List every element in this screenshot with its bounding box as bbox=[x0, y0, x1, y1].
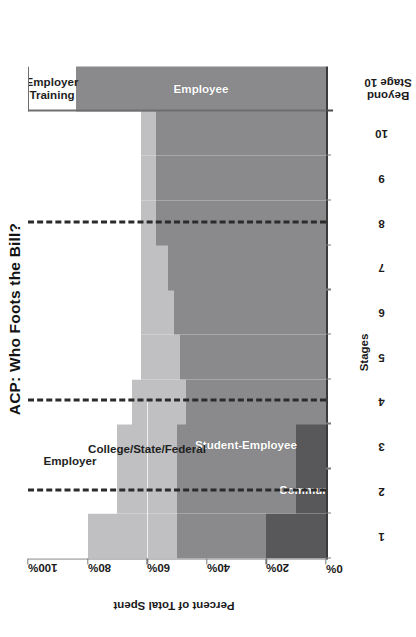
area-segment-college-state-federal bbox=[88, 513, 177, 558]
area-segment-student-employee bbox=[177, 423, 296, 468]
area-segment-community bbox=[296, 423, 326, 468]
area-segment-student-employee bbox=[177, 468, 296, 513]
area-segment-student-employee bbox=[156, 110, 326, 155]
area-segment-community bbox=[266, 513, 326, 558]
x-tick-label: 8 bbox=[337, 216, 416, 229]
y-tick-label: 20% bbox=[266, 562, 289, 574]
area-segment-college-state-federal bbox=[141, 289, 174, 334]
area-segment-employer bbox=[28, 110, 141, 155]
area-segment-employer bbox=[28, 334, 141, 379]
area-segment-college-state-federal bbox=[141, 200, 156, 245]
area-segment-student-employee bbox=[186, 379, 326, 424]
area-label-college-state-federal: College/State/Federal bbox=[88, 442, 206, 455]
x-tick-mark bbox=[326, 244, 331, 245]
x-tick-mark bbox=[326, 378, 331, 379]
x-tick-mark bbox=[326, 199, 331, 200]
area-segment-student-employee bbox=[156, 155, 326, 200]
area-segment-employer bbox=[28, 289, 141, 334]
x-tick-label: 6 bbox=[337, 305, 416, 318]
area-segment-student-employee bbox=[180, 334, 326, 379]
area-segment-college-state-federal bbox=[141, 334, 180, 379]
area-segment-college-state-federal bbox=[117, 468, 177, 513]
area-segment-employer bbox=[28, 200, 141, 245]
area-segment-college-state-federal bbox=[141, 244, 168, 289]
y-tick-label: 60% bbox=[147, 562, 170, 574]
x-tick-mark bbox=[326, 512, 331, 513]
area-segment-student-employee bbox=[174, 289, 326, 334]
phase-divider-2 bbox=[28, 398, 326, 401]
area-segment-employer bbox=[28, 155, 141, 200]
area-segment-college-state-federal bbox=[132, 379, 186, 424]
area-segment-employer bbox=[28, 513, 88, 558]
area-segment-student-employee bbox=[168, 244, 326, 289]
area-segment-student-employee bbox=[177, 513, 266, 558]
x-tick-label: 4 bbox=[337, 395, 416, 408]
x-tick-label: 3 bbox=[337, 440, 416, 453]
x-tick-mark bbox=[326, 333, 331, 334]
x-tick-mark bbox=[326, 422, 331, 423]
area-label-employee: Employee bbox=[173, 82, 228, 95]
area-label-community: Community bbox=[279, 482, 326, 495]
phase-divider-3 bbox=[28, 220, 326, 223]
plot-area: CommunityStudent-EmployeeCollege/State/F… bbox=[28, 66, 328, 559]
y-axis-title: Percent of Total Spent bbox=[84, 599, 264, 611]
phase-divider-1 bbox=[28, 488, 326, 491]
area-segment-employer bbox=[28, 468, 117, 513]
beyond-column-left-rule bbox=[28, 109, 326, 110]
y-tick-label: 40% bbox=[207, 562, 230, 574]
area-segment-student-employee bbox=[76, 66, 326, 111]
x-tick-mark bbox=[326, 557, 331, 558]
x-tick-mark bbox=[326, 467, 331, 468]
chart-title: ACP: Who Foots the Bill? bbox=[6, 0, 24, 637]
area-segment-community bbox=[296, 468, 326, 513]
y-tick-label: 80% bbox=[88, 562, 111, 574]
beyond-column-top-rule bbox=[28, 66, 29, 111]
x-axis: 12345678910BeyondStage 10 bbox=[326, 66, 386, 558]
area-label-employer-training: EmployerTraining bbox=[28, 75, 78, 102]
x-tick-label: 1 bbox=[337, 529, 416, 542]
area-segment-college-state-federal bbox=[141, 110, 156, 155]
x-tick-label: 7 bbox=[337, 261, 416, 274]
area-segment-student-employee bbox=[156, 200, 326, 245]
x-tick-mark bbox=[326, 154, 331, 155]
y-tick-label: 100% bbox=[28, 562, 57, 574]
x-tick-mark-beyond bbox=[326, 109, 333, 110]
area-segment-employer bbox=[28, 423, 117, 468]
plot-inner: CommunityStudent-EmployeeCollege/State/F… bbox=[28, 66, 326, 558]
x-tick-label-beyond: BeyondStage 10 bbox=[343, 75, 416, 101]
area-segment-employer-training bbox=[28, 66, 76, 111]
area-segment-college-state-federal bbox=[117, 423, 177, 468]
x-tick-mark bbox=[326, 288, 331, 289]
y-tick-label: 0% bbox=[326, 562, 343, 574]
area-label-student-employee: Student-Employee bbox=[195, 437, 297, 450]
area-label-employer: Employer bbox=[43, 453, 96, 466]
x-tick-label: 10 bbox=[337, 127, 416, 140]
area-segment-employer bbox=[28, 244, 141, 289]
segment-hairline bbox=[147, 401, 148, 558]
x-tick-label: 5 bbox=[337, 350, 416, 363]
area-segment-college-state-federal bbox=[141, 155, 156, 200]
x-tick-label: 2 bbox=[337, 484, 416, 497]
area-segment-employer bbox=[28, 379, 132, 424]
x-tick-label: 9 bbox=[337, 171, 416, 184]
